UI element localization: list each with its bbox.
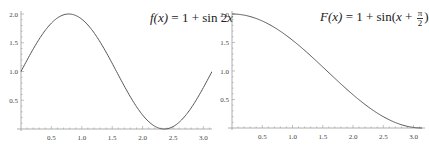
y-tick-label: 1.0 bbox=[220, 68, 229, 76]
y-tick-label: 1.5 bbox=[220, 39, 229, 47]
x-tick-label: 1.5 bbox=[318, 133, 327, 141]
x-tick-label: 2.0 bbox=[138, 134, 147, 142]
x-tick-label: 2.5 bbox=[379, 133, 388, 141]
y-tick-label: 0.5 bbox=[220, 96, 229, 104]
formula-rhs: = 1 + sin( bbox=[342, 9, 396, 24]
y-tick-label: 1.0 bbox=[9, 68, 18, 76]
formula-fraction: π2 bbox=[417, 9, 424, 28]
formula-close: ) bbox=[424, 9, 428, 24]
formula-lhs: f(x) bbox=[150, 10, 168, 25]
x-tick-label: 1.0 bbox=[288, 133, 297, 141]
curve bbox=[232, 14, 422, 128]
formula-plus: + bbox=[402, 9, 416, 24]
x-tick-label: 1.0 bbox=[77, 134, 86, 142]
curve bbox=[21, 14, 212, 129]
x-tick-label: 0.5 bbox=[258, 133, 267, 141]
formula-F: F(x) = 1 + sin(x + π2) bbox=[320, 9, 429, 28]
chart-left: 0.51.01.52.02.53.00.51.01.52.0 f(x) = 1 … bbox=[0, 0, 212, 147]
chart-right: 0.51.01.52.02.53.00.51.01.52.0 F(x) = 1 … bbox=[212, 0, 425, 147]
x-tick-label: 1.5 bbox=[108, 134, 117, 142]
x-tick-label: 3.0 bbox=[199, 134, 208, 142]
x-tick-label: 3.0 bbox=[409, 133, 418, 141]
x-tick-label: 2.0 bbox=[349, 133, 358, 141]
formula-lhs: F(x) bbox=[320, 9, 342, 24]
y-tick-label: 2.0 bbox=[9, 11, 18, 19]
y-tick-label: 2.0 bbox=[220, 11, 229, 19]
x-tick-label: 0.5 bbox=[47, 134, 56, 142]
y-tick-label: 1.5 bbox=[9, 39, 18, 47]
x-tick-label: 2.5 bbox=[169, 134, 178, 142]
fraction-denominator: 2 bbox=[417, 19, 424, 28]
y-tick-label: 0.5 bbox=[9, 97, 18, 105]
